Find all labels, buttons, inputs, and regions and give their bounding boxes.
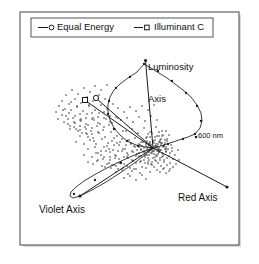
scatter-point bbox=[149, 131, 151, 133]
scatter-point bbox=[169, 168, 171, 170]
scatter-point bbox=[100, 104, 102, 106]
scatter-point bbox=[157, 162, 159, 164]
scatter-point bbox=[105, 150, 107, 152]
scatter-point bbox=[155, 126, 157, 128]
scatter-point bbox=[93, 140, 95, 142]
scatter-point bbox=[127, 154, 129, 156]
scatter-point bbox=[67, 118, 69, 120]
scatter-point bbox=[74, 115, 76, 117]
scatter-point bbox=[61, 100, 63, 102]
scatter-point bbox=[68, 112, 70, 114]
scatter-point bbox=[113, 144, 115, 146]
circle-open-marker bbox=[49, 25, 54, 30]
scatter-point bbox=[98, 112, 100, 114]
scatter-point bbox=[175, 163, 177, 165]
scatter-point bbox=[148, 159, 150, 161]
scatter-point bbox=[55, 111, 57, 113]
scatter-point bbox=[110, 131, 112, 133]
scatter-point bbox=[90, 130, 92, 132]
scatter-point bbox=[149, 171, 151, 173]
scatter-point bbox=[91, 156, 93, 158]
axis-endpoint-dot bbox=[144, 59, 147, 62]
scatter-point bbox=[70, 101, 72, 103]
scatter-point bbox=[154, 145, 156, 147]
scatter-point bbox=[154, 139, 156, 141]
scatter-point bbox=[62, 109, 64, 111]
scatter-point bbox=[154, 156, 156, 158]
scatter-point bbox=[109, 151, 111, 153]
scatter-point bbox=[174, 154, 176, 156]
scatter-point bbox=[164, 139, 166, 141]
scatter-point bbox=[92, 117, 94, 119]
scatter-point bbox=[97, 122, 99, 124]
axis-endpoint-dot bbox=[225, 185, 228, 188]
scatter-point bbox=[121, 169, 123, 171]
scatter-point bbox=[167, 148, 169, 150]
scatter-point bbox=[81, 132, 83, 134]
scatter-point bbox=[126, 117, 128, 119]
scatter-point bbox=[161, 156, 163, 158]
scatter-point bbox=[97, 116, 99, 118]
scatter-point bbox=[61, 114, 63, 116]
scatter-point bbox=[146, 154, 148, 156]
scatter-point bbox=[137, 132, 139, 134]
locus-tick-dot bbox=[129, 76, 131, 78]
scatter-point bbox=[75, 141, 77, 143]
scatter-point bbox=[108, 148, 110, 150]
scatter-point bbox=[141, 174, 143, 176]
scatter-point bbox=[168, 134, 170, 136]
scatter-point bbox=[129, 175, 131, 177]
scatter-point bbox=[69, 128, 71, 130]
legend-label-illuminant-c: Illuminant C bbox=[154, 22, 204, 33]
scatter-point bbox=[132, 121, 134, 123]
equal-energy-marker bbox=[93, 95, 98, 100]
scatter-point bbox=[141, 105, 143, 107]
scatter-point bbox=[87, 161, 89, 163]
scatter-point bbox=[103, 126, 105, 128]
scatter-point bbox=[73, 126, 75, 128]
scatter-point bbox=[96, 125, 98, 127]
scatter-point bbox=[165, 172, 167, 174]
scatter-point bbox=[116, 135, 118, 137]
scatter-point bbox=[146, 148, 148, 150]
scatter-point bbox=[161, 135, 163, 137]
scatter-point bbox=[163, 159, 165, 161]
scatter-point bbox=[159, 171, 161, 173]
scatter-point bbox=[74, 98, 76, 100]
scatter-point bbox=[112, 149, 114, 151]
locus-tick-dot bbox=[120, 162, 122, 164]
scatter-point bbox=[103, 156, 105, 158]
scatter-point bbox=[149, 136, 151, 138]
scatter-point bbox=[106, 145, 108, 147]
scatter-point bbox=[145, 178, 147, 180]
scatter-point bbox=[118, 144, 120, 146]
scatter-point bbox=[104, 98, 106, 100]
scatter-point bbox=[145, 167, 147, 169]
scatter-point bbox=[172, 166, 174, 168]
scatter-point bbox=[103, 146, 105, 148]
scatter-point bbox=[118, 158, 120, 160]
scatter-point bbox=[94, 85, 96, 87]
scatter-point bbox=[159, 159, 161, 161]
scatter-point bbox=[117, 168, 119, 170]
scatter-point bbox=[65, 115, 67, 117]
scatter-point bbox=[77, 130, 79, 132]
scatter-point bbox=[92, 100, 94, 102]
red-axis-label: Red Axis bbox=[178, 192, 217, 203]
scatter-point bbox=[63, 121, 65, 123]
scatter-point bbox=[126, 152, 128, 154]
scatter-point bbox=[141, 166, 143, 168]
scatter-point bbox=[115, 165, 117, 167]
scatter-point bbox=[92, 137, 94, 139]
scatter-point bbox=[160, 149, 162, 151]
scatter-point bbox=[158, 131, 160, 133]
scatter-point bbox=[162, 168, 164, 170]
scatter-point bbox=[160, 165, 162, 167]
scatter-point bbox=[168, 170, 170, 172]
scatter-point bbox=[128, 139, 130, 141]
scatter-point bbox=[177, 149, 179, 151]
scatter-point bbox=[93, 119, 95, 121]
scatter-point bbox=[108, 162, 110, 164]
scatter-point bbox=[117, 107, 119, 109]
scatter-point bbox=[57, 118, 59, 120]
